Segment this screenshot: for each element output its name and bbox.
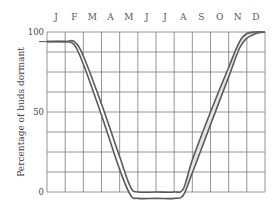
month-label: A bbox=[106, 12, 114, 22]
month-label: M bbox=[124, 12, 133, 22]
month-label: D bbox=[252, 12, 259, 22]
month-label: J bbox=[144, 12, 149, 22]
y-axis-label: Percentage of buds dormant bbox=[16, 47, 26, 177]
bud-dormancy-chart: JFMAMJJASOND 050100 Percentage of buds d… bbox=[0, 0, 277, 214]
month-label: A bbox=[179, 12, 187, 22]
month-label: M bbox=[88, 12, 97, 22]
y-tick-label: 100 bbox=[28, 27, 44, 37]
month-label: S bbox=[198, 12, 204, 22]
autumn-band-shading bbox=[183, 32, 265, 195]
x-axis-month-labels: JFMAMJJASOND bbox=[53, 12, 259, 22]
y-tick-label: 0 bbox=[39, 187, 44, 197]
month-label: N bbox=[234, 12, 242, 22]
dormancy-band bbox=[39, 32, 265, 199]
y-tick-label: 50 bbox=[33, 107, 44, 117]
month-label: F bbox=[71, 12, 77, 22]
y-axis-tick-labels: 050100 bbox=[28, 27, 44, 197]
month-label: J bbox=[53, 12, 58, 22]
month-label: O bbox=[216, 12, 223, 22]
month-label: J bbox=[162, 12, 167, 22]
